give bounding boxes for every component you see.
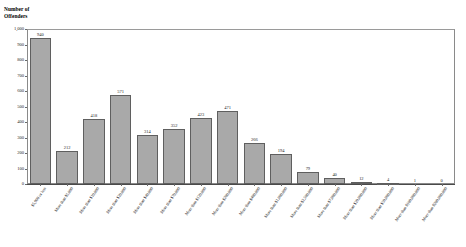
x-tick-mark <box>388 184 389 186</box>
bar-value-label: 212 <box>54 145 81 150</box>
y-tick-mark <box>25 122 27 123</box>
bar <box>217 111 238 184</box>
y-tick-label: 100 <box>0 166 24 171</box>
x-tick-mark <box>361 184 362 186</box>
x-tick-label: More than $120,000 <box>184 186 207 216</box>
bar-value-label: 1 <box>402 178 429 183</box>
bar-value-label: 4 <box>375 177 402 182</box>
x-tick-label: More than $5,000 <box>53 186 74 213</box>
y-tick-mark <box>25 45 27 46</box>
y-tick-label: 300 <box>0 135 24 140</box>
bar-value-label: 79 <box>295 166 322 171</box>
y-tick-mark <box>25 76 27 77</box>
x-tick-label: $5,000 or less <box>30 186 47 208</box>
x-tick-label: More than $200,000 <box>211 186 234 216</box>
bar-value-label: 314 <box>134 129 161 134</box>
x-tick-mark <box>335 184 336 186</box>
x-tick-label: More than $1,000,000 <box>263 186 288 219</box>
bar-value-label: 423 <box>188 112 215 117</box>
bar-value-label: 571 <box>107 89 134 94</box>
x-tick-label: More than $400,000 <box>238 186 261 216</box>
y-tick-label: 0 <box>0 181 24 186</box>
x-tick-label: More than $200,000,000 <box>421 186 448 222</box>
bar <box>270 154 291 184</box>
bar <box>297 172 318 184</box>
x-tick-label: More than $70,000 <box>159 186 181 215</box>
y-axis-title: Number of Offenders <box>4 6 29 20</box>
y-tick-mark <box>25 169 27 170</box>
bar-value-label: 194 <box>268 148 295 153</box>
x-tick-label: More than $2,500,000 <box>289 186 314 219</box>
bar <box>163 129 184 184</box>
bar-value-label: 40 <box>321 172 348 177</box>
x-tick-mark <box>281 184 282 186</box>
bar <box>244 143 265 184</box>
bar <box>56 151 77 184</box>
x-tick-label: More than $20,000,000 <box>342 186 368 221</box>
y-tick-label: 200 <box>0 150 24 155</box>
bar-value-label: 12 <box>348 176 375 181</box>
x-tick-label: More than $20,000 <box>105 186 127 215</box>
y-tick-mark <box>25 29 27 30</box>
x-tick-label: More than $7,000,000 <box>316 186 341 219</box>
x-tick-mark <box>228 184 229 186</box>
x-tick-label: More than $10,000 <box>78 186 100 215</box>
x-tick-mark <box>442 184 443 186</box>
x-tick-mark <box>121 184 122 186</box>
x-tick-mark <box>147 184 148 186</box>
y-tick-label: 400 <box>0 119 24 124</box>
x-tick-label: More than $100,000,000 <box>394 186 421 222</box>
y-tick-label: 900 <box>0 42 24 47</box>
bar <box>30 38 51 184</box>
x-tick-mark <box>174 184 175 186</box>
bar <box>83 119 104 184</box>
bar-value-label: 352 <box>161 123 188 128</box>
y-tick-mark <box>25 153 27 154</box>
y-tick-label: 600 <box>0 88 24 93</box>
x-tick-label: More than $50,000,000 <box>368 186 394 221</box>
y-tick-mark <box>25 184 27 185</box>
y-tick-label: 700 <box>0 73 24 78</box>
bar-value-label: 940 <box>27 32 54 37</box>
y-tick-label: 800 <box>0 57 24 62</box>
bar-value-label: 418 <box>81 113 108 118</box>
bar <box>137 135 158 184</box>
y-tick-mark <box>25 107 27 108</box>
y-tick-mark <box>25 138 27 139</box>
bar-value-label: 0 <box>428 178 455 183</box>
x-tick-mark <box>40 184 41 186</box>
y-tick-mark <box>25 91 27 92</box>
x-tick-mark <box>67 184 68 186</box>
bar <box>190 118 211 184</box>
y-tick-label: 500 <box>0 104 24 109</box>
x-tick-mark <box>254 184 255 186</box>
x-tick-label: More than $40,000 <box>132 186 154 215</box>
y-tick-label: 1,000 <box>0 26 24 31</box>
y-tick-mark <box>25 60 27 61</box>
bar <box>110 95 131 184</box>
bar-chart: Number of Offenders 1,000900800700600500… <box>0 0 466 247</box>
bar-value-label: 266 <box>241 137 268 142</box>
bar-value-label: 471 <box>214 105 241 110</box>
